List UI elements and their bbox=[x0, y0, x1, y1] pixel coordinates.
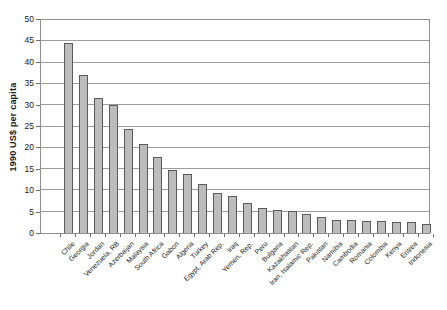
x-tick-mark bbox=[135, 234, 136, 237]
y-tick-label-10: 10 bbox=[8, 185, 34, 195]
bar-turkey bbox=[198, 184, 207, 233]
x-tick-mark bbox=[328, 234, 329, 237]
bar-malaysia bbox=[139, 144, 148, 233]
y-tick-mark bbox=[36, 233, 40, 234]
y-tick-label-0: 0 bbox=[8, 228, 34, 238]
y-tick-mark bbox=[36, 83, 40, 84]
x-tick-mark bbox=[239, 234, 240, 237]
bar-chile bbox=[64, 43, 73, 233]
x-tick-mark bbox=[90, 234, 91, 237]
bar-jordan bbox=[94, 98, 103, 233]
bar-iraq bbox=[228, 196, 237, 233]
x-tick-mark bbox=[403, 234, 404, 237]
bar-south-africa bbox=[153, 157, 162, 233]
y-tick-label-25: 25 bbox=[8, 121, 34, 131]
x-tick-mark bbox=[298, 234, 299, 237]
x-tick-mark bbox=[120, 234, 121, 237]
x-tick-mark bbox=[433, 234, 434, 237]
bar-egypt-arab-rep bbox=[213, 193, 222, 233]
gridline bbox=[41, 62, 429, 63]
bar-bulgaria bbox=[273, 210, 282, 233]
bar-indonesia bbox=[422, 224, 431, 233]
x-tick-mark bbox=[194, 234, 195, 237]
bar-gabon bbox=[168, 170, 177, 233]
x-tick-mark bbox=[105, 234, 106, 237]
bar-kazakhastan bbox=[288, 211, 297, 233]
y-tick-mark bbox=[36, 40, 40, 41]
x-tick-mark bbox=[224, 234, 225, 237]
x-tick-mark bbox=[60, 234, 61, 237]
y-tick-mark bbox=[36, 147, 40, 148]
y-tick-label-45: 45 bbox=[8, 35, 34, 45]
bar-eritrea bbox=[407, 222, 416, 233]
y-tick-mark bbox=[36, 105, 40, 106]
x-tick-mark bbox=[75, 234, 76, 237]
y-tick-label-35: 35 bbox=[8, 78, 34, 88]
x-tick-mark bbox=[209, 234, 210, 237]
y-tick-mark bbox=[36, 126, 40, 127]
y-tick-label-20: 20 bbox=[8, 142, 34, 152]
x-tick-mark bbox=[373, 234, 374, 237]
y-tick-mark bbox=[36, 62, 40, 63]
gridline bbox=[41, 83, 429, 84]
y-tick-label-5: 5 bbox=[8, 207, 34, 217]
bar-iran-isalamic-rep bbox=[302, 214, 311, 233]
bar-georgia bbox=[79, 75, 88, 233]
bar-peru bbox=[258, 208, 267, 233]
y-tick-label-30: 30 bbox=[8, 100, 34, 110]
x-tick-mark bbox=[388, 234, 389, 237]
x-tick-mark bbox=[164, 234, 165, 237]
bar-algeria bbox=[183, 174, 192, 233]
y-tick-mark bbox=[36, 19, 40, 20]
gridline bbox=[41, 40, 429, 41]
bar-venezuela-rb bbox=[109, 105, 118, 233]
x-tick-mark bbox=[313, 234, 314, 237]
y-tick-label-40: 40 bbox=[8, 57, 34, 67]
x-tick-mark bbox=[358, 234, 359, 237]
y-tick-label-15: 15 bbox=[8, 164, 34, 174]
bar-chart-figure: 1990 US$ per capita 05101520253035404550… bbox=[0, 0, 447, 310]
x-tick-mark bbox=[418, 234, 419, 237]
x-tick-mark bbox=[343, 234, 344, 237]
y-tick-mark bbox=[36, 212, 40, 213]
bar-pakistan bbox=[317, 217, 326, 233]
bar-colombia bbox=[377, 221, 386, 233]
x-tick-mark bbox=[284, 234, 285, 237]
plot-area bbox=[40, 19, 430, 234]
x-tick-mark bbox=[149, 234, 150, 237]
x-tick-mark bbox=[254, 234, 255, 237]
y-tick-label-50: 50 bbox=[8, 14, 34, 24]
y-tick-mark bbox=[36, 190, 40, 191]
bar-kenya bbox=[392, 222, 401, 234]
x-tick-mark bbox=[269, 234, 270, 237]
bar-cambodia bbox=[347, 220, 356, 233]
x-tick-mark bbox=[179, 234, 180, 237]
bar-yemen-rep bbox=[243, 203, 252, 233]
y-tick-mark bbox=[36, 169, 40, 170]
bar-romania bbox=[362, 221, 371, 233]
bar-namibia bbox=[332, 220, 341, 233]
bar-azerbaijan bbox=[124, 129, 133, 233]
